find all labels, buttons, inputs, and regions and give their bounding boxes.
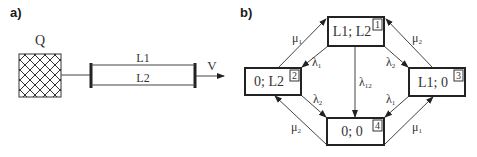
state-2-text: 0; L2	[254, 74, 284, 89]
panel-a: a) Q L1 L2 V	[10, 5, 224, 97]
source-hatched-box	[19, 54, 61, 97]
panel-b: b) L1; L2 1 0; L2 2 L1; 0 3	[240, 5, 465, 145]
state-box-2: 0; L2 2	[245, 68, 301, 95]
label-lambda2-bottom-left: λ2	[313, 92, 323, 107]
label-mu2-top-right: μ2	[412, 31, 422, 46]
panel-a-label: a)	[10, 5, 22, 20]
arrow-mu1-2-to-1	[278, 19, 326, 68]
state-box-1: L1; L2 1	[328, 17, 384, 46]
output-label: V	[207, 58, 217, 73]
source-label: Q	[35, 33, 45, 48]
state-4-number: 4	[375, 120, 380, 131]
label-mu1-top-left: μ1	[292, 31, 302, 46]
label-lambda1-top-left: λ1	[312, 55, 322, 70]
state-3-number: 3	[456, 70, 461, 81]
label-mu2-bottom-left: μ2	[291, 120, 301, 135]
label-lambda12-center: λ12	[359, 75, 372, 90]
state-4-text: 0; 0	[341, 124, 362, 139]
line-l1-label: L1	[136, 51, 149, 65]
state-box-3: L1; 0 3	[409, 68, 465, 96]
arrow-mu2-3-to-1	[386, 19, 433, 68]
state-1-number: 1	[375, 19, 380, 30]
line-l2-label: L2	[136, 71, 149, 85]
diagram-canvas: a) Q L1 L2 V b) L1; L2 1	[0, 0, 477, 157]
state-1-text: L1; L2	[333, 24, 372, 39]
label-lambda1-bottom-right: λ1	[386, 92, 396, 107]
state-box-4: 0; 0 4	[327, 118, 384, 145]
panel-b-label: b)	[240, 5, 252, 20]
label-lambda2-top-right: λ2	[386, 55, 396, 70]
state-3-text: L1; 0	[418, 75, 448, 90]
label-mu1-bottom-right: μ1	[412, 120, 422, 135]
state-2-number: 2	[292, 70, 297, 81]
